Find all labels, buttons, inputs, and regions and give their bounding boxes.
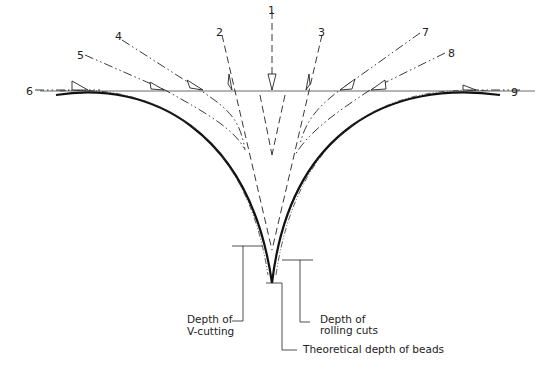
label-8: 8 bbox=[448, 47, 455, 60]
tool-markers bbox=[72, 74, 476, 90]
label-1: 1 bbox=[268, 4, 275, 17]
label-6: 6 bbox=[26, 85, 33, 98]
depth-v-label-1: Depth of bbox=[187, 313, 233, 325]
right-bead-curve bbox=[272, 92, 500, 283]
label-4: 4 bbox=[115, 30, 122, 43]
label-3: 3 bbox=[318, 26, 325, 39]
right-roll-path bbox=[276, 90, 490, 275]
depth-v-label-2: V-cutting bbox=[187, 325, 234, 337]
v-cut-lines bbox=[222, 12, 322, 250]
dimension-leaders bbox=[232, 246, 313, 350]
left-roll-path bbox=[60, 90, 268, 275]
bead-diagram: 1 2 3 4 5 6 7 8 9 Depth of V-cutting Dep… bbox=[0, 0, 542, 374]
label-5: 5 bbox=[77, 49, 84, 62]
theoretical-depth-label: Theoretical depth of beads bbox=[302, 343, 444, 355]
depth-roll-label-2: rolling cuts bbox=[320, 324, 378, 336]
label-9: 9 bbox=[511, 86, 518, 99]
label-2: 2 bbox=[216, 26, 223, 39]
label-7: 7 bbox=[422, 26, 429, 39]
left-bead-curve bbox=[56, 92, 272, 283]
